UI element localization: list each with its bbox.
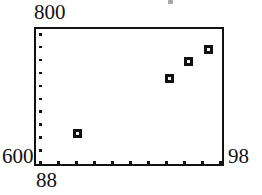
x-axis-max-label: 98 — [228, 146, 249, 167]
x-axis-tick — [147, 161, 150, 164]
y-axis-tick — [39, 46, 42, 49]
x-axis-tick — [93, 161, 96, 164]
x-axis-tick — [57, 161, 60, 164]
x-axis-tick — [183, 161, 186, 164]
plot-frame — [34, 27, 224, 166]
y-axis-tick — [39, 72, 42, 75]
y-axis-tick — [39, 98, 42, 101]
x-axis-tick — [201, 161, 204, 164]
plot-area — [36, 29, 222, 164]
x-axis-tick — [165, 161, 168, 164]
y-axis-max-label: 800 — [34, 2, 66, 23]
y-axis-tick — [39, 59, 42, 62]
y-axis-tick — [39, 149, 42, 152]
scan-artifact — [168, 0, 173, 4]
data-point-marker — [184, 57, 193, 66]
y-axis-tick — [39, 33, 42, 36]
y-axis-tick — [39, 85, 42, 88]
y-axis-min-label: 600 — [2, 146, 34, 167]
x-axis-min-label: 88 — [36, 170, 57, 191]
x-axis-tick — [129, 161, 132, 164]
y-axis-tick — [39, 136, 42, 139]
y-axis-tick — [39, 110, 42, 113]
x-axis-tick — [111, 161, 114, 164]
x-axis-tick — [219, 161, 222, 164]
y-axis-tick — [39, 123, 42, 126]
x-axis-tick — [39, 161, 42, 164]
scatter-plot-figure: 800 600 88 98 — [0, 0, 262, 195]
x-axis-tick — [75, 161, 78, 164]
data-point-marker — [204, 45, 213, 54]
data-point-marker — [73, 129, 82, 138]
data-point-marker — [165, 74, 174, 83]
